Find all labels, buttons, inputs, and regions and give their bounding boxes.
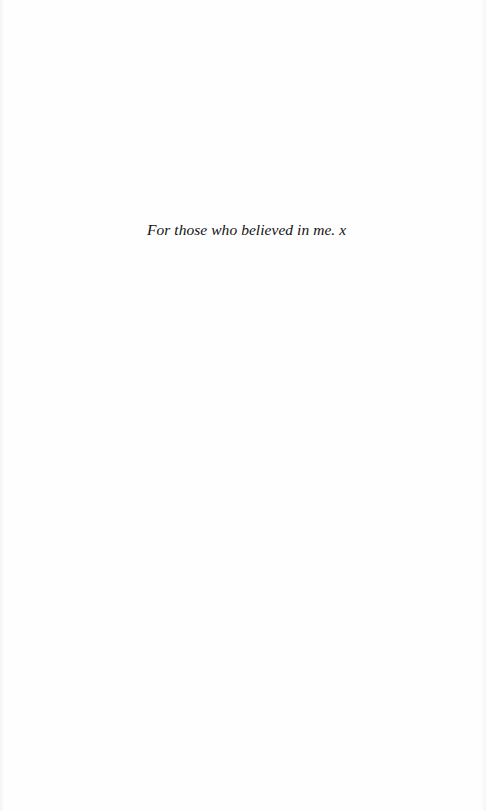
page-edge-left: [0, 0, 4, 811]
dedication-text: For those who believed in me. x: [147, 220, 346, 240]
book-page: For those who believed in me. x: [0, 0, 486, 811]
page-edge-right: [481, 0, 486, 811]
